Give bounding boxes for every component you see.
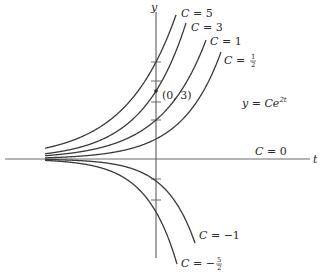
equation-label: y = Ce2t — [241, 96, 287, 110]
label-c-3: C = 3 — [191, 21, 223, 34]
svg-text:1: 1 — [251, 53, 255, 61]
y-axis-label: y — [150, 1, 158, 14]
svg-text:C = −: C = − — [181, 257, 215, 270]
label-c-0: C = 0 — [255, 145, 287, 158]
label-c-half: C = 1 2 — [224, 53, 256, 69]
svg-text:C =: C = — [224, 54, 245, 67]
axes — [5, 12, 310, 258]
solution-curves-plot: y t C = 5 C = 3 C = 1 C = 1 2 C = 0 C = … — [0, 0, 322, 274]
point-label: (0, 3) — [162, 89, 192, 102]
point-marker — [154, 89, 158, 93]
solution-curves — [45, 15, 221, 264]
solution-curve — [45, 159, 195, 243]
label-c-minus-five-halves: C = − 5 2 — [181, 256, 222, 272]
label-c-1: C = 1 — [210, 35, 242, 48]
t-axis-label: t — [313, 153, 318, 166]
label-c-5: C = 5 — [181, 7, 213, 20]
label-c-minus-1: C = −1 — [199, 229, 240, 242]
solution-curve — [45, 160, 177, 264]
svg-text:2: 2 — [251, 61, 255, 69]
svg-text:5: 5 — [217, 256, 221, 264]
svg-text:2: 2 — [217, 264, 221, 272]
